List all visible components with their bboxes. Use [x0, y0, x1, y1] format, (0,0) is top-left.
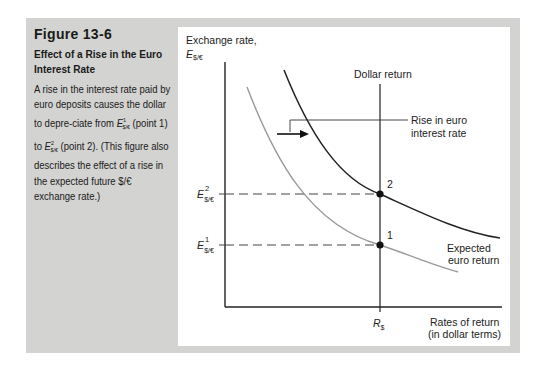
expected-euro-return-curve-shifted — [284, 70, 500, 238]
rs-label: R$ — [373, 317, 385, 331]
dollar-return-label: Dollar return — [354, 68, 412, 80]
right-arrow-icon — [300, 130, 309, 138]
x-axis-title-line1: Rates of return — [430, 316, 500, 328]
e1-label: E1$/€ — [197, 235, 214, 254]
equilibrium-point-1 — [376, 241, 383, 248]
e2-label: E2$/€ — [197, 184, 214, 203]
e2-sup: 2 — [205, 184, 209, 193]
rs-sub: $ — [381, 324, 385, 331]
point-2-label: 2 — [387, 178, 393, 190]
e2-sub: $/€ — [204, 196, 214, 203]
y-axis-symbol: E$/€ — [186, 48, 203, 61]
expected-euro-return-line2: euro return — [448, 254, 500, 266]
x-axis-title-line2: (in dollar terms) — [428, 328, 501, 340]
equilibrium-point-2 — [376, 190, 383, 197]
chart-svg: Exchange rate, E$/€ Dollar return Rise i… — [0, 0, 541, 367]
e1-sub: $/€ — [204, 247, 214, 254]
rise-label-line1: Rise in euro — [411, 114, 467, 126]
y-axis-subscript: $/€ — [193, 54, 203, 61]
point-1-label: 1 — [387, 229, 393, 241]
expected-euro-return-line1: Expected — [447, 242, 491, 254]
rise-label-line2: interest rate — [411, 127, 467, 139]
y-axis-title: Exchange rate, — [186, 34, 257, 46]
e1-sup: 1 — [205, 235, 209, 244]
